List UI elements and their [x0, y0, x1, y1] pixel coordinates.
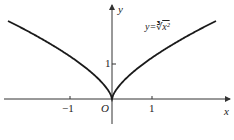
- x-axis-label: x: [224, 106, 229, 117]
- y-tick-label-1: 1: [105, 58, 111, 69]
- x-tick-label-1: 1: [149, 103, 155, 114]
- graph-canvas: [0, 0, 234, 140]
- function-label: y=∛x²: [145, 22, 170, 32]
- origin-label: O: [101, 103, 109, 114]
- y-axis-label: y: [118, 4, 123, 15]
- x-tick-label-neg1: −1: [62, 103, 74, 114]
